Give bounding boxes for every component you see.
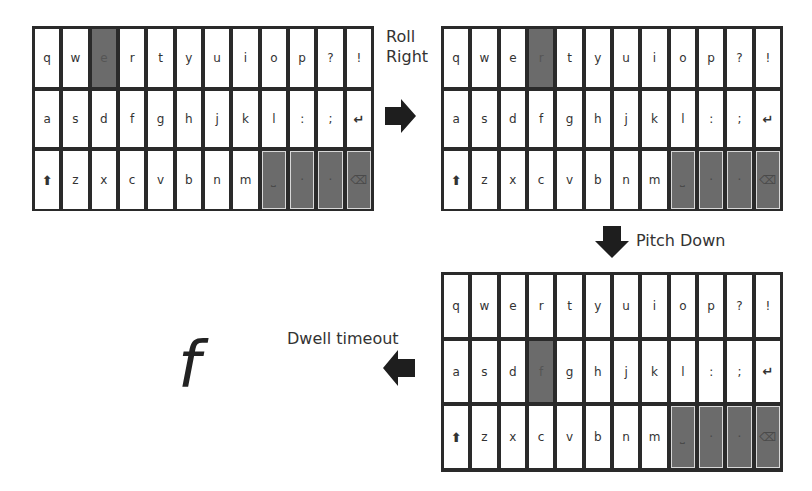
key-comma[interactable]: · [727,406,751,468]
key-g[interactable]: g [557,91,581,147]
key-![interactable]: ! [756,29,780,87]
key-b[interactable]: b [586,151,610,209]
space-key[interactable]: ⎵ [262,151,286,209]
key-v[interactable]: v [148,151,172,209]
key-e[interactable]: e [501,275,525,337]
key-f[interactable]: f [120,91,144,147]
key-q[interactable]: q [444,29,468,87]
key-x[interactable]: x [501,151,525,209]
key-n[interactable]: n [205,151,229,209]
key-s[interactable]: s [63,91,87,147]
key-m[interactable]: m [642,151,666,209]
key-comma[interactable]: · [727,151,751,209]
key-v[interactable]: v [557,406,581,468]
key-![interactable]: ! [347,29,371,87]
space-key[interactable]: ⎵ [671,406,695,468]
space-key[interactable]: ⎵ [671,151,695,209]
key-period[interactable]: · [290,151,314,209]
key-p[interactable]: p [699,29,723,87]
backspace-key[interactable]: ⌫ [756,406,780,468]
key-:[interactable]: : [699,341,723,402]
key-i[interactable]: i [642,29,666,87]
key-y[interactable]: y [586,275,610,337]
key-c[interactable]: c [529,406,553,468]
key-:[interactable]: : [699,91,723,147]
key-d[interactable]: d [501,91,525,147]
key-t[interactable]: t [557,275,581,337]
key-p[interactable]: p [699,275,723,337]
key-k[interactable]: k [642,341,666,402]
key-j[interactable]: j [614,341,638,402]
key-r[interactable]: r [120,29,144,87]
key-f[interactable]: f [529,341,553,402]
shift-key[interactable]: ⬆ [35,151,59,209]
key-a[interactable]: a [444,91,468,147]
shift-key[interactable]: ⬆ [444,406,468,468]
key-l[interactable]: l [671,91,695,147]
key-y[interactable]: y [586,29,610,87]
key-h[interactable]: h [177,91,201,147]
key-c[interactable]: c [529,151,553,209]
key-![interactable]: ! [756,275,780,337]
key-q[interactable]: q [35,29,59,87]
key-w[interactable]: w [472,275,496,337]
key-a[interactable]: a [35,91,59,147]
key-q[interactable]: q [444,275,468,337]
key-d[interactable]: d [501,341,525,402]
key-m[interactable]: m [642,406,666,468]
key-n[interactable]: n [614,406,638,468]
key-comma[interactable]: · [318,151,342,209]
key-l[interactable]: l [262,91,286,147]
key-t[interactable]: t [557,29,581,87]
key-n[interactable]: n [614,151,638,209]
key-;[interactable]: ; [727,91,751,147]
key-z[interactable]: z [472,151,496,209]
key-:[interactable]: : [290,91,314,147]
key-z[interactable]: z [63,151,87,209]
return-key[interactable]: ↵ [756,91,780,147]
key-u[interactable]: u [614,275,638,337]
key-g[interactable]: g [557,341,581,402]
key-k[interactable]: k [233,91,257,147]
key-j[interactable]: j [614,91,638,147]
key-x[interactable]: x [92,151,116,209]
key-h[interactable]: h [586,91,610,147]
key-u[interactable]: u [205,29,229,87]
key-o[interactable]: o [671,29,695,87]
shift-key[interactable]: ⬆ [444,151,468,209]
key-p[interactable]: p [290,29,314,87]
key-k[interactable]: k [642,91,666,147]
key-period[interactable]: · [699,406,723,468]
key-c[interactable]: c [120,151,144,209]
key-e[interactable]: e [501,29,525,87]
key-j[interactable]: j [205,91,229,147]
key-r[interactable]: r [529,29,553,87]
key-o[interactable]: o [671,275,695,337]
key-?[interactable]: ? [318,29,342,87]
key-i[interactable]: i [642,275,666,337]
key-i[interactable]: i [233,29,257,87]
key-u[interactable]: u [614,29,638,87]
key-e[interactable]: e [92,29,116,87]
key-period[interactable]: · [699,151,723,209]
key-y[interactable]: y [177,29,201,87]
key-s[interactable]: s [472,341,496,402]
key-r[interactable]: r [529,275,553,337]
key-;[interactable]: ; [318,91,342,147]
key-?[interactable]: ? [727,29,751,87]
key-f[interactable]: f [529,91,553,147]
key-b[interactable]: b [177,151,201,209]
key-o[interactable]: o [262,29,286,87]
return-key[interactable]: ↵ [347,91,371,147]
key-g[interactable]: g [148,91,172,147]
key-z[interactable]: z [472,406,496,468]
key-v[interactable]: v [557,151,581,209]
key-?[interactable]: ? [727,275,751,337]
key-;[interactable]: ; [727,341,751,402]
key-m[interactable]: m [233,151,257,209]
backspace-key[interactable]: ⌫ [347,151,371,209]
key-b[interactable]: b [586,406,610,468]
key-s[interactable]: s [472,91,496,147]
key-t[interactable]: t [148,29,172,87]
key-a[interactable]: a [444,341,468,402]
